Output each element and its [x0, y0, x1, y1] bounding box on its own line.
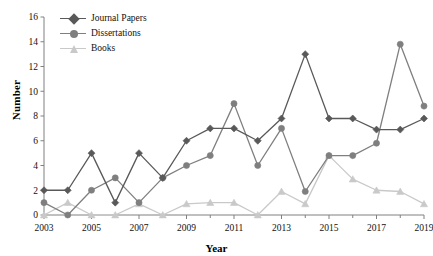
- legend-item-books: Books: [60, 41, 147, 56]
- chart-legend: Journal Papers Dissertations Books: [60, 11, 147, 56]
- svg-text:2017: 2017: [367, 223, 386, 233]
- svg-text:2009: 2009: [177, 223, 196, 233]
- legend-label: Journal Papers: [91, 14, 147, 24]
- svg-text:2007: 2007: [130, 223, 149, 233]
- svg-text:8: 8: [33, 111, 38, 121]
- legend-item-journal-papers: Journal Papers: [60, 11, 147, 26]
- svg-text:2005: 2005: [82, 223, 101, 233]
- legend-label: Dissertations: [91, 29, 141, 39]
- y-axis-title: Number: [10, 70, 22, 130]
- svg-text:2: 2: [33, 186, 38, 196]
- svg-text:2015: 2015: [320, 223, 339, 233]
- svg-text:2019: 2019: [415, 223, 433, 233]
- legend-marker-triangle-icon: [60, 43, 86, 55]
- legend-marker-circle-icon: [60, 28, 86, 40]
- svg-text:14: 14: [29, 37, 39, 47]
- x-axis-title: Year: [0, 242, 433, 254]
- svg-text:2013: 2013: [272, 223, 291, 233]
- legend-label: Books: [91, 44, 115, 54]
- svg-text:10: 10: [29, 87, 39, 97]
- svg-text:4: 4: [33, 161, 38, 171]
- legend-item-dissertations: Dissertations: [60, 26, 147, 41]
- svg-text:2011: 2011: [225, 223, 244, 233]
- svg-text:2003: 2003: [35, 223, 54, 233]
- legend-marker-diamond-icon: [60, 13, 86, 25]
- svg-text:6: 6: [33, 136, 38, 146]
- line-chart: 0246810121416200320052007200920112013201…: [0, 0, 433, 256]
- svg-text:12: 12: [29, 62, 39, 72]
- svg-text:0: 0: [33, 210, 38, 220]
- svg-text:16: 16: [29, 12, 39, 22]
